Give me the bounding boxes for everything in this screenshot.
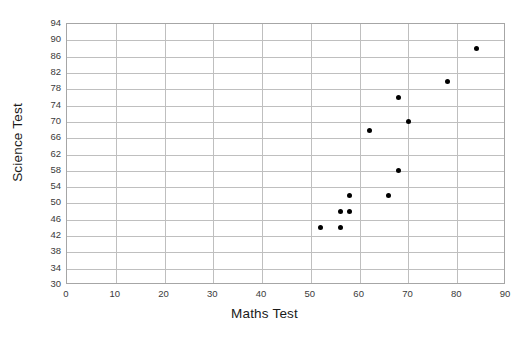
gridline-y-74 <box>67 106 504 107</box>
gridline-y-86 <box>67 57 504 58</box>
x-axis-tick-labels: 0102030405060708090 <box>66 288 505 302</box>
y-tick-label-38: 38 <box>3 246 61 256</box>
gridline-y-78 <box>67 89 504 90</box>
gridline-y-66 <box>67 138 504 139</box>
data-point <box>396 168 401 173</box>
gridline-x-10 <box>116 24 117 283</box>
gridline-x-20 <box>165 24 166 283</box>
gridline-x-60 <box>360 24 361 283</box>
gridline-y-50 <box>67 203 504 204</box>
x-axis-title: Maths Test <box>0 306 529 321</box>
gridline-y-62 <box>67 155 504 156</box>
data-point <box>445 79 450 84</box>
data-point <box>338 209 343 214</box>
gridline-x-30 <box>213 24 214 283</box>
scatter-chart: 3034384246505458626670747882869094 01020… <box>0 0 529 337</box>
gridline-y-34 <box>67 269 504 270</box>
y-tick-label-86: 86 <box>3 51 61 61</box>
data-point <box>367 128 372 133</box>
data-point <box>347 209 352 214</box>
plot-area <box>66 23 505 284</box>
x-tick-label-80: 80 <box>436 288 476 300</box>
gridline-y-42 <box>67 236 504 237</box>
x-tick-label-0: 0 <box>46 288 86 300</box>
gridline-y-46 <box>67 220 504 221</box>
data-point <box>318 225 323 230</box>
data-point <box>347 193 352 198</box>
gridline-x-80 <box>457 24 458 283</box>
gridline-y-38 <box>67 252 504 253</box>
gridline-y-70 <box>67 122 504 123</box>
x-tick-label-90: 90 <box>485 288 525 300</box>
gridline-y-82 <box>67 73 504 74</box>
x-tick-label-70: 70 <box>387 288 427 300</box>
x-tick-label-60: 60 <box>339 288 379 300</box>
data-point <box>406 119 411 124</box>
data-point <box>386 193 391 198</box>
x-tick-label-20: 20 <box>144 288 184 300</box>
data-point <box>338 225 343 230</box>
x-tick-label-10: 10 <box>95 288 135 300</box>
gridline-y-58 <box>67 171 504 172</box>
x-tick-label-50: 50 <box>290 288 330 300</box>
y-axis-title: Science Test <box>10 63 25 223</box>
x-tick-label-30: 30 <box>192 288 232 300</box>
gridline-y-90 <box>67 40 504 41</box>
y-tick-label-42: 42 <box>3 230 61 240</box>
y-tick-label-34: 34 <box>3 263 61 273</box>
gridline-x-40 <box>262 24 263 283</box>
gridline-x-50 <box>311 24 312 283</box>
y-tick-label-94: 94 <box>3 18 61 28</box>
gridline-y-54 <box>67 187 504 188</box>
data-point <box>474 46 479 51</box>
x-tick-label-40: 40 <box>241 288 281 300</box>
data-point <box>396 95 401 100</box>
gridline-x-70 <box>408 24 409 283</box>
y-tick-label-90: 90 <box>3 34 61 44</box>
